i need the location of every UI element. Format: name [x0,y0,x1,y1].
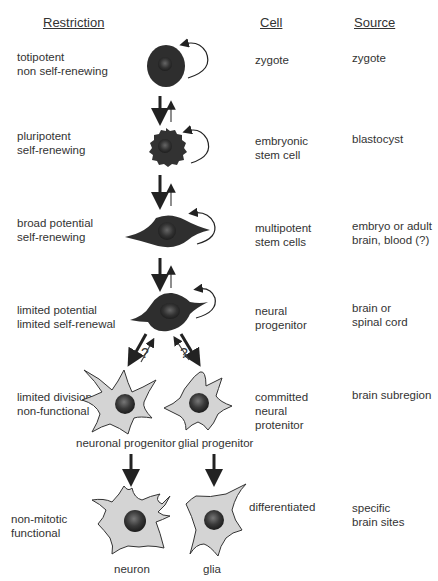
self-renewal-arrow-icon [184,43,208,78]
neuron-cell-icon [92,486,170,554]
caption-neuronal-progenitor: neuronal progenitor [76,437,176,449]
self-renewal-arrow-icon [187,130,209,163]
neuronal-progenitor-cell-icon [82,370,156,434]
multipotent-stem-cell-icon [125,215,210,247]
caption-glial-progenitor: glial progenitor [178,437,253,449]
glia-cell-icon [186,484,246,556]
glial-progenitor-cell-icon [164,372,232,430]
zygote-cell-icon [147,45,185,87]
caption-glia: glia [203,563,221,575]
branch-question-mark-left: ? [141,345,149,361]
branch-question-mark-right: ? [180,345,188,361]
neural-progenitor-cell-icon [130,293,208,331]
lineage-diagram [0,0,438,581]
embryonic-stem-cell-icon [149,128,187,167]
caption-neuron: neuron [114,563,150,575]
